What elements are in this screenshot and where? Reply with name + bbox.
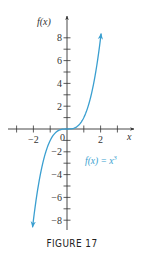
y-tick-label: −8 [51, 215, 62, 226]
y-tick-label: −4 [51, 169, 62, 180]
x-tick-labels: 2−2 [28, 134, 103, 145]
x-tick-label: −2 [28, 134, 39, 145]
function-label: f(x) = x3 [85, 154, 118, 167]
y-axis [64, 16, 71, 230]
function-label-text: f(x) = x [85, 156, 114, 167]
y-tick-label: −6 [51, 192, 62, 203]
y-tick-label: 6 [57, 55, 62, 66]
x-tick-label: 2 [98, 134, 103, 145]
y-tick-label: 2 [57, 101, 62, 112]
y-tick-label: 8 [57, 32, 62, 43]
cubic-function-plot: 2−2 2468−2−4−6−8 0 f(x) x f(x) = x3 [0, 0, 144, 259]
y-tick-label: −2 [51, 146, 62, 157]
function-label-exponent: 3 [113, 154, 118, 161]
figure-caption: FIGURE 17 [11, 237, 133, 249]
x-axis-label: x [126, 131, 132, 142]
y-tick-label: 4 [57, 78, 62, 89]
y-axis-label: f(x) [37, 16, 52, 28]
origin-label: 0 [60, 132, 65, 143]
